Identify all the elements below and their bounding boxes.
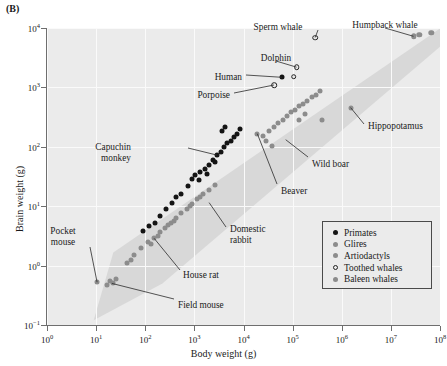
data-point-primate <box>207 162 212 167</box>
annotation-field-mouse: Field mouse <box>178 300 224 311</box>
data-point-glire <box>255 131 260 136</box>
annotation-humpback-whale: Humpback whale <box>320 20 447 31</box>
data-point-glire <box>213 182 218 187</box>
data-point-artio <box>348 105 353 110</box>
legend-item-label: Toothed whales <box>341 263 402 273</box>
annotation-dolphin: Dolphin <box>211 53 341 64</box>
data-point-primate <box>170 200 175 205</box>
y-axis-tick-label: 103 <box>0 81 40 93</box>
legend-marker-icon <box>330 230 341 235</box>
y-axis-title: Brain weight (g) <box>14 166 25 232</box>
data-point-artio <box>300 102 305 107</box>
annotation-label-line: Human <box>112 72 242 83</box>
data-point-primate <box>185 184 190 189</box>
legend-dot-glire <box>333 242 338 247</box>
annotation-house-rat: House rat <box>183 270 219 281</box>
legend-item-glire[interactable]: Glires <box>330 239 431 251</box>
legend-dot-baleen <box>333 277 338 282</box>
annotation-capuchin-monkey: Capuchinmonkey <box>1 142 131 163</box>
gridline-horizontal <box>47 87 440 88</box>
legend-marker-icon <box>330 253 341 258</box>
data-point-primate <box>197 178 202 183</box>
legend-item-artio[interactable]: Artiodactyls <box>330 250 431 262</box>
annotation-label-line: Dolphin <box>211 53 341 64</box>
legend-marker-icon <box>330 277 341 282</box>
annotation-label-line: Humpback whale <box>320 20 447 31</box>
data-point-primate <box>237 127 242 132</box>
legend-marker-icon <box>330 265 341 271</box>
data-point-artio <box>305 98 310 103</box>
x-axis-tick-label: 108 <box>434 333 446 345</box>
annotation-label-line: Field mouse <box>178 300 224 311</box>
x-axis-tick <box>194 326 195 331</box>
x-axis-tick-label: 104 <box>237 333 249 345</box>
x-axis-tick <box>145 326 146 331</box>
data-point-artio <box>296 117 301 122</box>
data-point-artio <box>320 117 325 122</box>
x-axis-tick-label: 105 <box>286 333 298 345</box>
y-axis-tick <box>41 28 46 29</box>
x-axis-tick-label: 100 <box>41 333 53 345</box>
data-point-glire <box>171 218 176 223</box>
data-point-glire <box>198 194 203 199</box>
x-axis-tick <box>293 326 294 331</box>
x-axis-title: Body weight (g) <box>0 348 447 359</box>
annotation-label-line: Domestic <box>230 224 266 235</box>
legend-item-baleen[interactable]: Baleen whales <box>330 273 431 285</box>
annotation-label-line: mouse <box>0 237 128 248</box>
data-point-primate <box>222 124 227 129</box>
annotation-label-line: Wild boar <box>312 159 349 170</box>
annotation-human: Human <box>112 72 242 83</box>
legend-dot-primate <box>333 230 338 235</box>
x-axis-tick-label: 102 <box>139 333 151 345</box>
data-point-primate <box>153 220 158 225</box>
y-axis-tick <box>41 325 46 326</box>
data-point-primate <box>205 172 210 177</box>
annotation-hippopotamus: Hippopotamus <box>368 121 423 132</box>
y-axis-tick <box>41 87 46 88</box>
gridline-horizontal <box>47 206 440 207</box>
data-point-glire <box>165 223 170 228</box>
legend-item-toothed[interactable]: Toothed whales <box>330 262 431 274</box>
data-point-primate <box>163 207 168 212</box>
data-point-artio <box>303 111 308 116</box>
data-point-glire <box>149 242 154 247</box>
data-point-primate <box>279 75 284 80</box>
data-point-primate <box>140 229 145 234</box>
gridline-vertical <box>47 28 48 325</box>
y-axis-spine <box>46 28 47 326</box>
annotation-wild-boar: Wild boar <box>312 159 349 170</box>
data-point-toothed <box>312 35 318 41</box>
annotation-label-line: Capuchin <box>1 142 131 153</box>
x-axis-tick-label: 106 <box>336 333 348 345</box>
data-point-glire <box>110 281 115 286</box>
x-axis-tick-label: 101 <box>90 333 102 345</box>
data-point-glire <box>95 280 100 285</box>
annotation-label-line: Hippopotamus <box>368 121 423 132</box>
y-axis-tick <box>41 206 46 207</box>
legend-dot-artio <box>333 253 338 258</box>
legend-item-label: Baleen whales <box>341 274 398 284</box>
legend-dot-toothed <box>333 265 339 271</box>
gridline-vertical <box>244 28 245 325</box>
y-axis-tick <box>41 266 46 267</box>
data-point-primate <box>147 224 152 229</box>
gridline-vertical <box>293 28 294 325</box>
data-point-glire <box>178 211 183 216</box>
legend-marker-icon <box>330 242 341 247</box>
legend-item-label: Glires <box>341 239 367 249</box>
data-point-artio <box>318 89 323 94</box>
panel-label: (B) <box>6 3 19 14</box>
x-axis-tick-label: 107 <box>385 333 397 345</box>
data-point-artio <box>267 129 272 134</box>
data-point-toothed <box>271 82 277 88</box>
x-axis-tick-label: 103 <box>188 333 200 345</box>
y-axis-tick-label: 100 <box>0 260 40 272</box>
legend: PrimatesGliresArtiodactylsToothed whales… <box>322 221 432 289</box>
data-point-glire <box>132 252 137 257</box>
data-point-primate <box>158 213 163 218</box>
legend-item-primate[interactable]: Primates <box>330 227 431 239</box>
data-point-primate <box>218 149 223 154</box>
data-point-glire <box>113 276 118 281</box>
data-point-artio <box>264 138 269 143</box>
